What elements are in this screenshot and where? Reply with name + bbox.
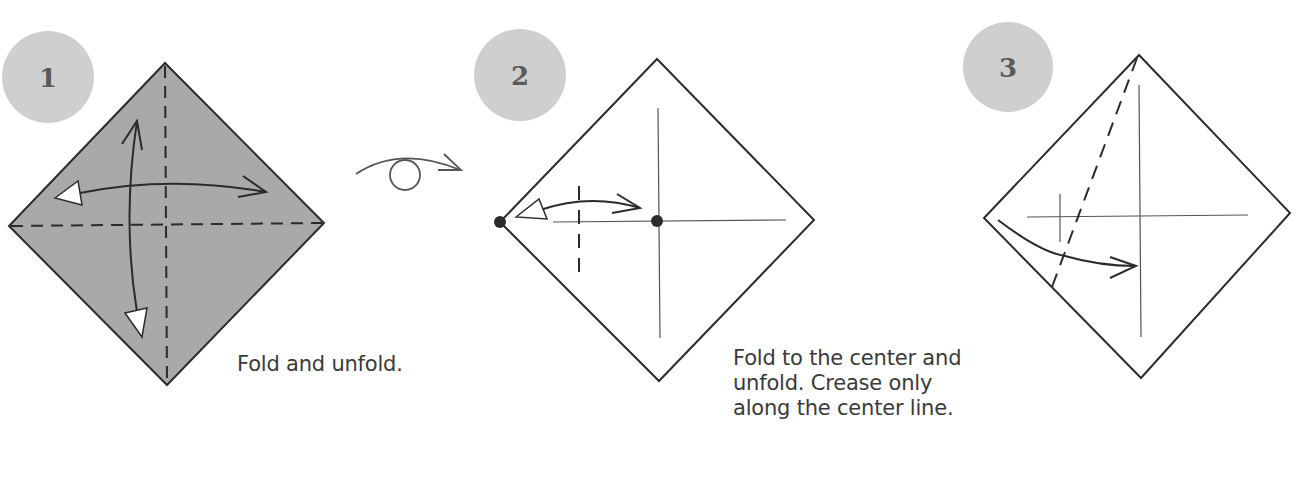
step-3-badge: 3 — [963, 22, 1053, 112]
step-1-badge: 1 — [2, 31, 94, 123]
step-2-number: 2 — [511, 61, 529, 91]
turn-over-icon — [356, 154, 461, 190]
step-2-caption-line-2: unfold. Crease only — [733, 371, 961, 396]
step-2-corner-dot — [494, 216, 506, 228]
step-3-number: 3 — [999, 53, 1017, 83]
step-1: 1 — [2, 31, 324, 385]
step-2-caption-line-1: Fold to the center and — [733, 346, 961, 371]
step-2-center-dot — [651, 215, 663, 227]
step-2-badge: 2 — [474, 29, 566, 121]
step-3: 3 — [963, 22, 1290, 378]
step-1-number: 1 — [39, 63, 57, 93]
step-1-caption: Fold and unfold. — [237, 352, 403, 377]
origami-diagram: 1 2 — [0, 0, 1296, 486]
step-2: 2 — [474, 29, 814, 381]
step-2-caption: Fold to the center and unfold. Crease on… — [733, 346, 961, 421]
step-2-caption-line-3: along the center line. — [733, 396, 961, 421]
